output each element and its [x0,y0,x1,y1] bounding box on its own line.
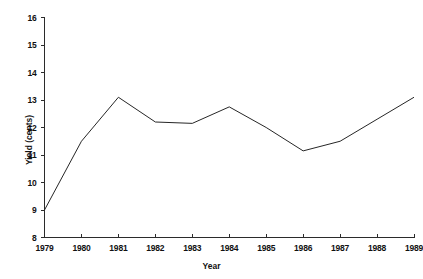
x-tick-label: 1984 [220,243,238,253]
y-tick-label: 8 [0,233,37,243]
line-chart: 8910111213141516 19791980198119821983198… [0,0,423,279]
x-tick-label: 1981 [109,243,127,253]
plot-area [0,0,423,279]
yield-series-line [45,97,415,210]
x-tick-label: 1987 [331,243,349,253]
y-tick-label: 10 [0,178,37,188]
x-tick-label: 1985 [257,243,275,253]
x-tick-label: 1982 [146,243,164,253]
x-axis-title: Year [0,261,423,271]
y-axis-title: Yield (cents) [24,114,34,164]
y-tick-label: 9 [0,205,37,215]
x-tick-label: 1988 [368,243,386,253]
x-tick-label: 1986 [294,243,312,253]
x-tick-label: 1989 [405,243,423,253]
x-tick-label: 1979 [35,243,53,253]
x-tick-label: 1983 [183,243,201,253]
y-tick-label: 14 [0,68,37,78]
x-tick-label: 1980 [72,243,90,253]
y-tick-label: 13 [0,95,37,105]
y-axis-ticks [41,18,45,238]
x-axis-ticks [45,234,415,238]
y-tick-label: 16 [0,13,37,23]
y-tick-label: 15 [0,40,37,50]
